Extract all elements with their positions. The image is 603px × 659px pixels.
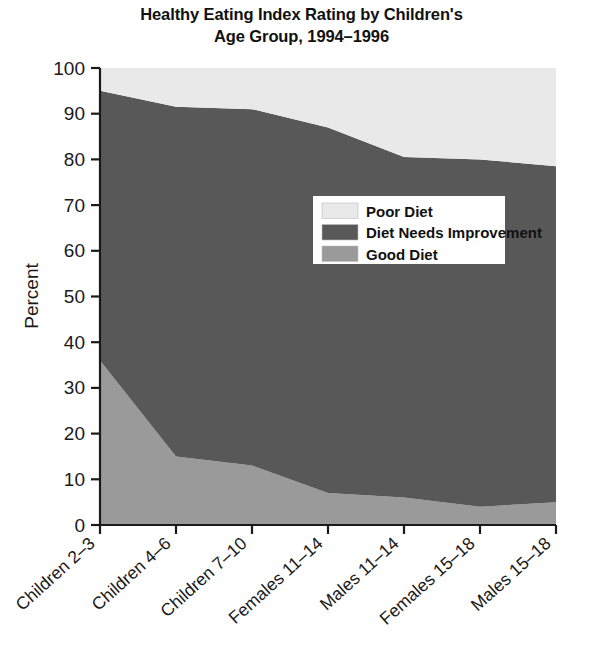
y-tick-label: 80: [64, 149, 85, 170]
y-tick-label: 30: [64, 377, 85, 398]
chart-container: Healthy Eating Index Rating by Children'…: [0, 0, 603, 659]
legend-label: Diet Needs Improvement: [366, 224, 542, 241]
y-tick-label: 60: [64, 240, 85, 261]
stacked-areas: [100, 68, 556, 525]
legend-label: Good Diet: [366, 246, 438, 263]
y-tick-label: 70: [64, 195, 85, 216]
y-tick-label: 90: [64, 103, 85, 124]
y-tick-label: 20: [64, 423, 85, 444]
x-axis-ticks: [100, 525, 556, 534]
y-tick-label: 100: [53, 58, 85, 79]
x-category-label: Males 15–18: [467, 533, 555, 615]
legend-label: Poor Diet: [366, 203, 433, 220]
legend-swatch: [322, 203, 358, 219]
y-axis-title: Percent: [21, 263, 42, 329]
x-category-label: Children 2–3: [12, 533, 99, 614]
y-axis-ticks: 0102030405060708090100: [53, 58, 100, 536]
x-axis-labels: Children 2–3Children 4–6Children 7–10Fem…: [12, 533, 555, 629]
y-tick-label: 40: [64, 332, 85, 353]
legend-swatch: [322, 225, 358, 241]
legend-swatch: [322, 246, 358, 262]
area-chart-svg: 0102030405060708090100 Children 2–3Child…: [0, 0, 603, 659]
y-tick-label: 10: [64, 469, 85, 490]
y-tick-label: 0: [74, 515, 85, 536]
y-tick-label: 50: [64, 286, 85, 307]
